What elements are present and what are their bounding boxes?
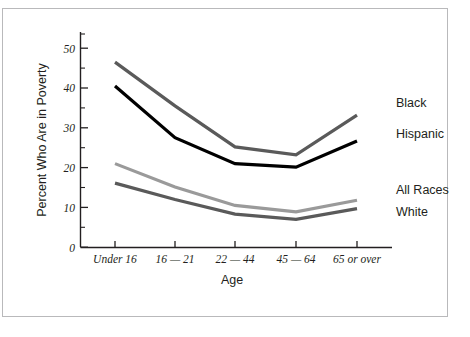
x-tick-label-45-64: 45 — 64 <box>277 253 316 265</box>
x-tick-label-22-44: 22 — 44 <box>216 253 255 265</box>
series-label-white: White <box>396 205 428 219</box>
y-tick-label-30: 30 <box>63 122 76 134</box>
series-line-hispanic <box>115 86 357 167</box>
x-axis-title: Age <box>221 273 243 287</box>
x-tick-label-under-16: Under 16 <box>93 253 137 265</box>
y-tick-label-40: 40 <box>64 82 76 94</box>
series-label-hispanic: Hispanic <box>396 127 444 141</box>
series-line-all-races <box>115 164 357 212</box>
series-line-black <box>115 62 357 155</box>
y-tick-label-20: 20 <box>64 162 76 174</box>
y-axis-title: Percent Who Are in Poverty <box>35 62 49 216</box>
series-label-black: Black <box>396 96 427 110</box>
series-label-all-races: All Races <box>396 183 449 197</box>
series-line-white <box>115 183 357 219</box>
y-tick-label-0: 0 <box>69 242 75 254</box>
x-tick-label-16-21: 16 — 21 <box>156 253 195 265</box>
y-tick-label-50: 50 <box>64 43 76 55</box>
y-tick-label-10: 10 <box>64 202 76 214</box>
chart-page: 0 10 20 30 40 50 Under 16 16 — 21 22 — 4… <box>0 0 470 337</box>
x-axis-ticks <box>115 241 357 248</box>
x-tick-label-65-or-over: 65 or over <box>333 253 381 265</box>
poverty-by-age-line-chart: 0 10 20 30 40 50 Under 16 16 — 21 22 — 4… <box>0 0 470 337</box>
